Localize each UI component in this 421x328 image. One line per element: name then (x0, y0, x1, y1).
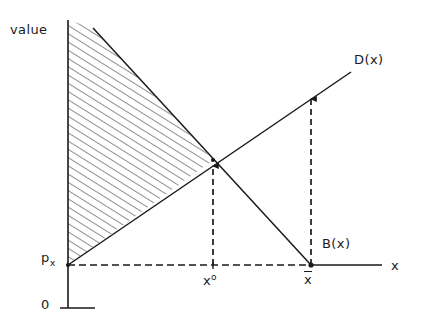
price-level-label-base: p (41, 250, 50, 265)
consumer-surplus-hatched-region (68, 20, 213, 265)
x-bar-label-base: x (304, 271, 312, 286)
x-bar-tick-label: x (304, 271, 312, 287)
y-axis-label: value (10, 22, 48, 37)
demand-curve-label: D(x) (354, 52, 383, 67)
price-origin-point-marker (66, 263, 70, 267)
economics-diagram: value D(x) B(x) px 0 x xo x (0, 0, 421, 328)
x-axis-label: x (391, 258, 399, 273)
origin-label: 0 (41, 297, 50, 312)
x-optimal-label-base: x (203, 273, 211, 288)
benefit-curve-label: B(x) (322, 236, 350, 251)
x-optimal-tick-label: xo (203, 272, 217, 288)
price-level-label: px (41, 250, 55, 268)
intersection-point-marker (211, 158, 215, 162)
price-level-label-subscript: x (50, 257, 56, 268)
x-optimal-label-superscript: o (211, 272, 217, 282)
x-bar-axis-point-marker (308, 262, 313, 267)
